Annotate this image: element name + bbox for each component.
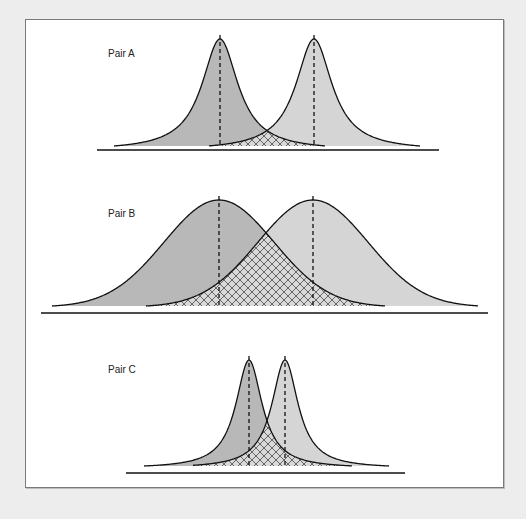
pairs-layer [41,35,488,473]
pair-a-group [97,35,439,150]
pair-a-label: Pair A [108,48,135,59]
pair-c-label: Pair C [108,364,136,375]
pair-c-group [126,356,405,473]
distribution-overlap-figure [0,0,526,519]
pair-b-label: Pair B [108,208,135,219]
